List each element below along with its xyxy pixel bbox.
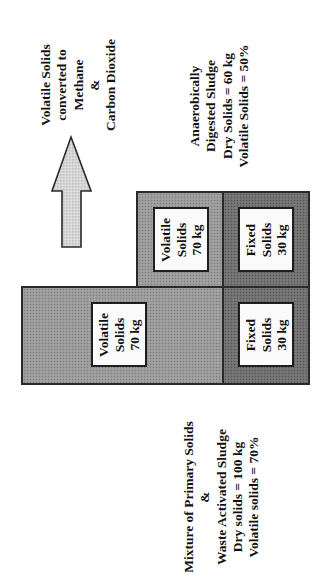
feed-volatile-line: Solids (111, 313, 127, 357)
digested-volatile-line: 70 kg (189, 218, 205, 262)
digested-sludge-label-line: Digested Sludge (204, 44, 220, 167)
gas-output-label-line: converted to (55, 39, 71, 131)
digested-sludge-label-line: Dry Solids = 60 kg (220, 44, 236, 167)
feed-sludge-label-line: Waste Activated Sludge (214, 421, 230, 573)
gas-output-label-line: Carbon Dioxide (103, 39, 119, 131)
feed-fixed-line: Fixed (243, 317, 259, 352)
feed-volatile-line: 70 kg (127, 313, 143, 357)
feed-volatile-solids-box: Volatile Solids 70 kg (91, 302, 147, 367)
feed-sludge-label-line: Mixture of Primary Solids (181, 421, 197, 573)
digested-fixed-line: 30 kg (274, 222, 290, 257)
feed-sludge-label-line: & (198, 421, 214, 573)
feed-sludge-label-line: Dry solids = 100 kg (230, 421, 246, 573)
feed-fixed-line: Solids (258, 317, 274, 352)
digested-volatile-line: Solids (173, 218, 189, 262)
sludge-digestion-diagram: Volatile Solids converted to Methane & C… (0, 0, 318, 579)
digested-volatile-line: Volatile (158, 218, 174, 262)
feed-fixed-solids-box: Fixed Solids 30 kg (238, 302, 294, 367)
gas-output-label-line: Volatile Solids (38, 39, 54, 131)
gas-output-label-line: & (87, 39, 103, 131)
gas-output-label-line: Methane (71, 39, 87, 131)
digested-fixed-line: Solids (258, 222, 274, 257)
feed-sludge-label-line: Volatile solids = 70% (246, 421, 262, 573)
digested-fixed-line: Fixed (243, 222, 259, 257)
digested-sludge-label-line: Anaerobically (187, 44, 203, 167)
digested-volatile-solids-box: Volatile Solids 70 kg (153, 207, 209, 272)
up-arrow-icon (52, 137, 91, 247)
digested-sludge-label-line: Volatile Solids = 50% (236, 44, 252, 167)
feed-volatile-line: Volatile (96, 313, 112, 357)
feed-fixed-line: 30 kg (274, 317, 290, 352)
digested-fixed-solids-box: Fixed Solids 30 kg (238, 207, 294, 272)
